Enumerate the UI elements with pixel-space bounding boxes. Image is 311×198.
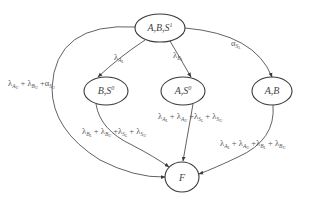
state-diagram: A,B,S1 B,S0 A,S0 A,B F λAL λBL αSL λAU +… [0, 0, 311, 198]
edge-label-alpha-sl: αSL [231, 38, 241, 50]
edge-label-lambda-al: λAL [114, 52, 125, 64]
svg-text:A,B: A,B [264, 85, 280, 96]
node-bs0: B,S0 [84, 77, 128, 105]
node-f: F [165, 162, 199, 192]
svg-text:A,B,S1: A,B,S1 [146, 22, 172, 33]
node-as0: A,S0 [161, 77, 205, 105]
edge-abs1-to-ab [185, 28, 272, 77]
node-abs1: A,B,S1 [135, 14, 185, 42]
edge-label-lambda-bl: λBL [173, 50, 184, 62]
edge-label-abs1-to-f: λAU + λBU +αSU [8, 78, 56, 90]
edge-label-as0-to-f: λAL + λAU +λSL + λSU [158, 111, 223, 123]
node-ab: A,B [252, 77, 292, 105]
edge-label-bs0-to-f: λBL + λBU +λSL + λSU [82, 126, 147, 138]
svg-text:F: F [178, 172, 186, 183]
